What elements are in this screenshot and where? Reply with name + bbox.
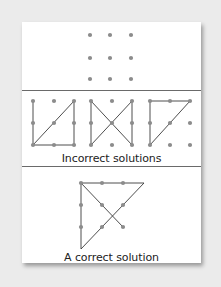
grid-dot [88, 56, 92, 60]
incorrect-solutions-panel [31, 99, 192, 147]
incorrect-solution-2 [89, 99, 134, 147]
grid-dot [31, 99, 35, 103]
grid-dot [129, 56, 133, 60]
grid-dot [89, 121, 93, 125]
grid-dot [79, 181, 83, 185]
grid-dot [100, 181, 104, 185]
correct-caption: A correct solution [22, 251, 201, 264]
grid-dot [188, 99, 192, 103]
grid-dot [130, 143, 134, 147]
nine-dot-diagram [22, 22, 201, 263]
grid-dot [168, 99, 172, 103]
grid-dot [72, 99, 76, 103]
incorrect-solution-1 [31, 99, 76, 147]
grid-dot [168, 121, 172, 125]
grid-dot [129, 77, 133, 81]
grid-dot [148, 99, 152, 103]
grid-dot [110, 143, 114, 147]
grid-dot [188, 121, 192, 125]
grid-dot [148, 143, 152, 147]
grid-dot [121, 225, 125, 229]
grid-dot [72, 143, 76, 147]
grid-dot [89, 143, 93, 147]
grid-dot [110, 121, 114, 125]
grid-dot [52, 143, 56, 147]
divider-top [22, 90, 201, 91]
grid-dot [31, 121, 35, 125]
grid-dot [88, 33, 92, 37]
grid-dot [88, 77, 92, 81]
grid-dot [31, 143, 35, 147]
grid-dot [108, 56, 112, 60]
incorrect-caption: Incorrect solutions [22, 152, 201, 165]
solution-path [81, 183, 144, 249]
grid-dot [121, 181, 125, 185]
grid-dot [188, 143, 192, 147]
grid-dot [79, 225, 83, 229]
grid-dot [110, 99, 114, 103]
grid-dot [52, 121, 56, 125]
grid-dot [130, 99, 134, 103]
grid-dot [121, 203, 125, 207]
grid-dot [129, 33, 133, 37]
grid-dot [89, 99, 93, 103]
grid-dot [130, 121, 134, 125]
grid-dot [79, 203, 83, 207]
grid-dot [72, 121, 76, 125]
incorrect-solution-3 [148, 99, 192, 147]
grid-dot [108, 33, 112, 37]
grid-dot [108, 77, 112, 81]
correct-solution-panel [79, 181, 144, 249]
grid-dot [100, 225, 104, 229]
grid-dot [168, 143, 172, 147]
divider-bottom [22, 166, 201, 167]
figure-card: Incorrect solutions A correct solution [22, 22, 201, 263]
grid-dot [52, 99, 56, 103]
grid-dot [148, 121, 152, 125]
grid-dot [100, 203, 104, 207]
puzzle-panel [88, 33, 133, 81]
